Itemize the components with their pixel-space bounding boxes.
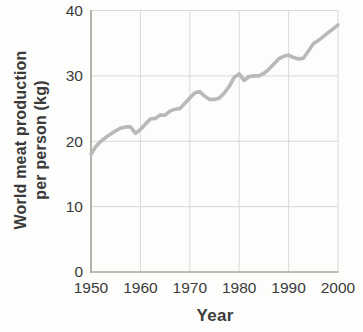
x-tick-label: 1970: [173, 279, 208, 296]
x-tick-label: 1980: [222, 279, 257, 296]
y-axis-title-line1: World meat production: [11, 50, 31, 229]
y-tick-label: 10: [66, 198, 84, 215]
data-line-world-meat-production-per-person: [91, 25, 338, 154]
x-tick-label: 1950: [74, 279, 109, 296]
x-tick-label: 2000: [321, 279, 356, 296]
y-tick-label: 40: [66, 2, 84, 19]
y-axis-title: World meat production per person (kg): [11, 50, 51, 229]
y-tick-label: 20: [66, 133, 84, 150]
x-axis-title: Year: [196, 306, 233, 326]
chart-figure: 010203040195019601970198019902000 World …: [0, 0, 363, 332]
chart-canvas: 010203040195019601970198019902000: [0, 0, 363, 332]
y-tick-label: 0: [74, 263, 83, 280]
x-tick-label: 1990: [271, 279, 306, 296]
y-tick-label: 30: [66, 67, 84, 84]
y-axis-title-line2: per person (kg): [31, 50, 51, 229]
x-tick-label: 1960: [123, 279, 158, 296]
